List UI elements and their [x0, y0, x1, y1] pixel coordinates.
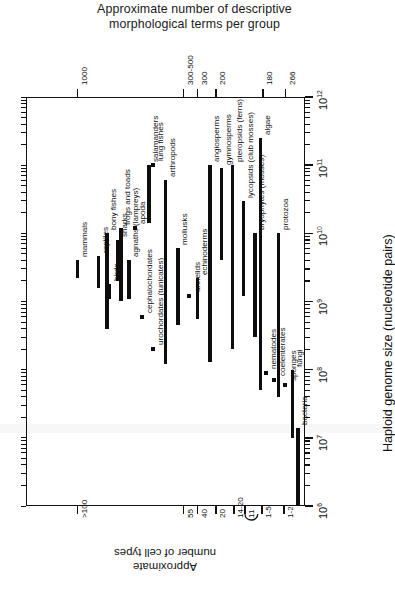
genome-axis-left-minor-tick — [21, 440, 26, 441]
genome-axis-major-tick — [305, 233, 313, 235]
genome-axis-left-minor-tick — [21, 384, 26, 385]
genome-axis-left-minor-tick — [21, 349, 26, 350]
group-label: fungi — [296, 349, 304, 367]
genome-axis-minor-tick — [305, 376, 310, 377]
bottom-axis-tick — [197, 506, 199, 514]
genome-axis-minor-tick — [305, 390, 310, 391]
genome-axis-minor-tick — [305, 243, 310, 244]
genome-axis-left-minor-tick — [21, 124, 26, 125]
genome-axis-minor-tick — [305, 103, 310, 104]
genome-axis-left-minor-tick — [21, 236, 26, 237]
group-label: mammals — [81, 222, 89, 257]
bottom-axis-tick — [233, 506, 235, 514]
bottom-axis-tick — [215, 506, 217, 514]
data-bar — [291, 370, 295, 438]
genome-axis-minor-tick — [305, 312, 310, 313]
genome-axis-minor-tick — [305, 239, 310, 240]
genome-axis-minor-tick — [305, 124, 310, 125]
genome-axis-minor-tick — [305, 200, 310, 201]
figure-title: Approximate number of descriptive morpho… — [0, 2, 389, 32]
genome-axis-left-minor-tick — [21, 396, 26, 397]
genome-axis-left-minor-tick — [21, 312, 26, 313]
genome-axis-left-minor-tick — [21, 301, 26, 302]
genome-axis-minor-tick — [305, 192, 310, 193]
genome-axis-minor-tick — [305, 144, 310, 145]
genome-axis-minor-tick — [305, 236, 310, 237]
genome-axis-tick-label: 1010 — [317, 227, 329, 247]
group-label: sharks — [121, 213, 129, 237]
top-axis-tick-label: 180 — [266, 71, 274, 85]
genome-axis-left-minor-tick — [21, 417, 26, 418]
genome-axis-tick-label: 107 — [317, 435, 329, 451]
genome-axis-minor-tick — [305, 132, 310, 133]
genome-axis-left-minor-tick — [21, 485, 26, 486]
genome-axis-minor-tick — [305, 248, 310, 249]
genome-axis-minor-tick — [305, 452, 310, 453]
bottom-axis-tick — [77, 506, 79, 514]
data-bar — [105, 233, 109, 328]
group-label: mollusks — [181, 214, 189, 245]
genome-axis-minor-tick — [305, 180, 310, 181]
data-marker-square — [187, 294, 191, 298]
top-axis-tick — [77, 89, 79, 97]
genome-axis-minor-tick — [305, 253, 310, 254]
genome-axis-left-minor-tick — [21, 322, 26, 323]
genome-axis-left-minor-tick — [21, 239, 26, 240]
group-label: gymnosperms — [225, 114, 233, 165]
top-axis-tick — [197, 89, 199, 97]
genome-axis-major-tick — [305, 164, 313, 166]
genome-axis-left-minor-tick — [21, 253, 26, 254]
data-bar — [164, 180, 168, 364]
genome-axis-tick-label: 1011 — [317, 159, 329, 178]
top-axis-tick-label: 266 — [289, 71, 297, 85]
bottom-axis-tick-label: >100 — [81, 500, 89, 518]
genome-axis-major-tick — [305, 437, 313, 439]
genome-axis-minor-tick — [305, 458, 310, 459]
genome-size-axis-label: Haploid genome size (nucleotide pairs) — [381, 234, 395, 452]
genome-axis-minor-tick — [305, 304, 310, 305]
genome-axis-minor-tick — [305, 440, 310, 441]
cell-types-axis-label: Approximate number of cell types — [70, 546, 260, 573]
data-marker-square — [151, 163, 155, 167]
genome-axis-major-tick — [305, 505, 313, 507]
genome-axis-left-minor-tick — [21, 328, 26, 329]
group-label: lung fishes — [157, 122, 165, 161]
top-axis-tick — [215, 89, 217, 97]
data-bar — [176, 248, 180, 325]
genome-axis-left-minor-tick — [21, 444, 26, 445]
genome-axis-left-minor-tick — [21, 212, 26, 213]
group-label: bacteria — [301, 396, 309, 425]
genome-axis-left-minor-tick — [21, 376, 26, 377]
genome-axis-left-minor-tick — [21, 448, 26, 449]
group-label: protozoa — [282, 199, 290, 231]
data-marker-square — [151, 347, 155, 351]
genome-axis-left-minor-tick — [21, 452, 26, 453]
genome-axis-left-minor-tick — [21, 268, 26, 269]
genome-axis-minor-tick — [305, 268, 310, 269]
genome-axis-left-minor-tick — [21, 458, 26, 459]
genome-axis-left-minor-tick — [21, 280, 26, 281]
figure-title-line-2: morphological terms per group — [0, 17, 389, 32]
genome-axis-left-minor-tick — [21, 260, 26, 261]
cell-axis-label-line-1: Approximate — [133, 561, 197, 573]
genome-axis-major-tick — [305, 96, 313, 98]
top-axis-tick-label: 200 — [219, 71, 227, 85]
genome-axis-left-minor-tick — [21, 132, 26, 133]
genome-axis-tick-label: 1012 — [317, 90, 329, 110]
genome-axis-tick-label: 109 — [317, 298, 329, 314]
data-bar — [76, 260, 80, 278]
genome-axis-minor-tick — [305, 372, 310, 373]
group-label: algae — [264, 115, 272, 135]
group-label: pteropsids (ferns) — [236, 99, 244, 162]
genome-axis-major-tick — [305, 301, 313, 303]
genome-axis-minor-tick — [305, 337, 310, 338]
genome-axis-left-minor-tick — [21, 304, 26, 305]
data-bar — [220, 168, 224, 260]
genome-axis-minor-tick — [305, 328, 310, 329]
genome-axis-tick-label: 106 — [317, 503, 329, 519]
data-bar — [277, 233, 281, 396]
data-marker-square — [272, 378, 276, 382]
genome-axis-minor-tick — [305, 260, 310, 261]
bottom-axis-tick-label: 20 — [219, 509, 227, 518]
genome-axis-left-minor-tick — [21, 316, 26, 317]
